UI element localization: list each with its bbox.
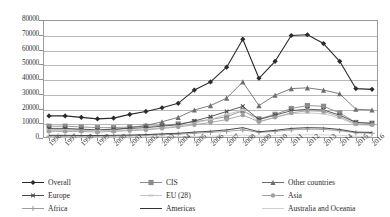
data-point-marker <box>111 129 115 133</box>
data-point-marker <box>63 129 67 133</box>
legend-label: Other countries <box>287 179 335 187</box>
data-point-marker <box>369 131 374 136</box>
legend-item-australia-and-oceania[interactable]: Australia and Oceania <box>262 204 382 213</box>
data-point-marker <box>353 130 358 135</box>
data-point-marker <box>256 130 261 135</box>
data-point-marker <box>192 123 196 127</box>
data-point-marker <box>354 122 358 126</box>
y-axis-tick-label: 50000 <box>0 60 39 67</box>
x-axis: 1996199719981999200020012002200320042005… <box>43 139 378 173</box>
line-chart: 8000070000600005000040000300002000010000… <box>0 0 390 217</box>
data-point-marker <box>128 128 132 132</box>
legend-item-other-countries[interactable]: Other countries <box>262 178 382 187</box>
none-marker-icon <box>140 204 162 213</box>
data-point-marker <box>144 128 148 132</box>
dot-marker-icon <box>262 191 284 200</box>
data-point-marker <box>63 113 68 118</box>
y-axis-tick-label: 40000 <box>0 75 39 82</box>
data-point-marker <box>321 109 325 113</box>
dash-marker-icon <box>140 191 162 200</box>
data-point-marker <box>337 114 341 118</box>
data-point-marker <box>273 129 278 134</box>
y-axis: 8000070000600005000040000300002000010000… <box>0 0 41 145</box>
square-marker-icon <box>140 178 162 187</box>
data-point-marker <box>257 120 261 124</box>
data-point-marker <box>224 117 228 121</box>
data-point-marker <box>321 104 326 109</box>
data-point-marker <box>273 93 278 98</box>
legend-item-asia[interactable]: Asia <box>262 191 382 200</box>
legend-label: Americas <box>165 205 195 213</box>
legend-item-cis[interactable]: CIS <box>140 178 262 187</box>
chart-legend: OverallCISOther countriesEuropeEU (28)As… <box>22 176 382 216</box>
y-axis-tick-label: 20000 <box>0 105 39 112</box>
data-point-marker <box>224 114 229 116</box>
none-marker-icon <box>262 204 284 213</box>
y-axis-tick-label: 70000 <box>0 31 39 38</box>
legend-label: EU (28) <box>165 192 191 200</box>
data-point-marker <box>176 132 181 137</box>
series-layer <box>43 20 378 138</box>
data-point-marker <box>240 37 245 42</box>
legend-item-americas[interactable]: Americas <box>140 204 262 213</box>
data-point-marker <box>192 107 197 112</box>
data-point-marker <box>160 126 164 130</box>
data-point-marker <box>370 123 374 127</box>
data-point-marker <box>240 79 245 84</box>
data-point-marker <box>289 33 294 38</box>
diamond-marker-icon <box>22 178 44 187</box>
data-point-marker <box>256 103 261 108</box>
data-point-marker <box>208 130 213 135</box>
data-point-marker <box>159 105 164 110</box>
x-marker-icon <box>22 191 44 200</box>
legend-item-eu-28[interactable]: EU (28) <box>140 191 262 200</box>
legend-label: Asia <box>287 192 302 200</box>
data-point-marker <box>143 109 148 114</box>
data-point-marker <box>79 115 84 120</box>
data-point-marker <box>208 103 213 108</box>
data-point-marker <box>337 128 342 133</box>
data-point-marker <box>273 115 277 119</box>
data-point-marker <box>289 111 293 115</box>
y-axis-tick-label: 60000 <box>0 46 39 53</box>
data-point-marker <box>369 87 374 92</box>
data-point-marker <box>47 129 51 133</box>
legend-item-europe[interactable]: Europe <box>22 191 140 200</box>
legend-label: Australia and Oceania <box>287 205 355 213</box>
legend-label: Europe <box>47 192 70 200</box>
plus-marker-icon <box>22 204 44 213</box>
y-axis-tick-label: 30000 <box>0 90 39 97</box>
data-point-marker <box>46 113 51 118</box>
y-axis-tick-label: 0 <box>0 134 39 141</box>
y-axis-tick-label: 80000 <box>0 16 39 23</box>
data-point-marker <box>127 112 132 117</box>
data-point-marker <box>353 86 358 91</box>
data-point-marker <box>240 109 245 111</box>
data-point-marker <box>305 109 309 113</box>
data-point-marker <box>305 32 310 37</box>
data-point-marker <box>111 115 116 120</box>
data-point-marker <box>305 103 310 108</box>
legend-label: Overall <box>47 179 71 187</box>
data-point-marker <box>208 119 213 121</box>
data-point-marker <box>79 129 83 133</box>
data-point-marker <box>176 125 180 129</box>
data-point-marker <box>176 115 181 120</box>
legend-item-africa[interactable]: Africa <box>22 204 140 213</box>
y-axis-tick-label: 10000 <box>0 119 39 126</box>
triangle-marker-icon <box>262 178 284 187</box>
data-point-marker <box>208 120 212 124</box>
legend-label: CIS <box>165 179 178 187</box>
data-point-marker <box>192 131 197 136</box>
data-point-marker <box>241 113 245 117</box>
data-point-marker <box>95 116 100 121</box>
legend-label: Africa <box>47 205 67 213</box>
legend-item-overall[interactable]: Overall <box>22 178 140 187</box>
